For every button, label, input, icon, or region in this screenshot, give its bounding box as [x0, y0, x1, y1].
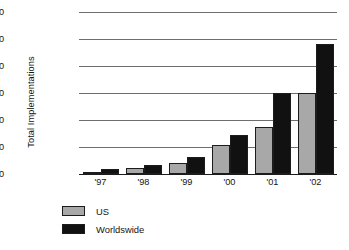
y-tick-label-text: 30,000 [0, 7, 4, 17]
bar [83, 172, 101, 174]
legend-label: US [96, 206, 109, 217]
x-tick-label: '00 [208, 177, 251, 187]
bar [212, 145, 230, 174]
bar [101, 169, 119, 174]
x-tick-label: '97 [79, 177, 122, 187]
legend-swatch-us [62, 206, 85, 216]
bar-group [208, 12, 251, 174]
bar [298, 93, 316, 174]
legend-item: US [62, 203, 242, 219]
y-axis-title: Total Implementations [26, 22, 36, 182]
x-tick-label: '98 [122, 177, 165, 187]
bar-group [79, 12, 122, 174]
y-tick-label-text: 5,000 [0, 142, 4, 152]
plot-area [79, 12, 337, 174]
y-tick-label-text: 10,000 [0, 115, 4, 125]
gridline-0 [79, 174, 337, 175]
legend-label: Worldswide [96, 224, 144, 235]
bar-group [294, 12, 337, 174]
y-tick-label-text: 0 [0, 169, 4, 179]
x-tick-label: '99 [165, 177, 208, 187]
legend-item: Worldswide [62, 221, 242, 237]
bar [273, 93, 291, 174]
bar [144, 165, 162, 174]
y-tick-label-text: 25,000 [0, 34, 4, 44]
x-tick-label: '01 [251, 177, 294, 187]
bar-group [122, 12, 165, 174]
bar-chart: Total Implementations 05,00010,00015,000… [0, 0, 349, 250]
bar [316, 44, 334, 174]
bar [187, 157, 205, 174]
x-axis-tick-labels: '97'98'99'00'01'02 [79, 177, 337, 193]
y-tick-label-text: 15,000 [0, 88, 4, 98]
bar-group [165, 12, 208, 174]
chart-legend: USWorldswide [62, 203, 242, 239]
x-tick-label: '02 [294, 177, 337, 187]
bar [169, 163, 187, 174]
legend-swatch-ww [62, 224, 85, 234]
bar [255, 127, 273, 174]
y-tick-label-text: 20,000 [0, 61, 4, 71]
bar [126, 168, 144, 174]
bar [230, 135, 248, 174]
bar-group [251, 12, 294, 174]
